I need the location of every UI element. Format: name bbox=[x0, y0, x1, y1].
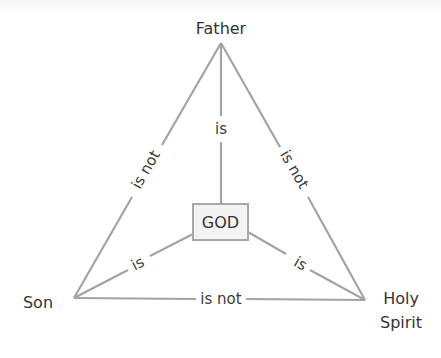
trinity-diagram: GOD Father Son Holy Spirit is not is not… bbox=[0, 0, 441, 358]
edge-label-son-god: is bbox=[128, 253, 147, 275]
edge-father-son-upper bbox=[162, 43, 221, 145]
edge-spirit-god-left bbox=[248, 232, 286, 254]
edge-label-son-spirit: is not bbox=[200, 290, 241, 308]
god-label: GOD bbox=[202, 213, 239, 232]
edge-label-father-god: is bbox=[215, 120, 227, 138]
father-label: Father bbox=[196, 19, 247, 38]
spirit-label: Spirit bbox=[380, 313, 422, 332]
edge-father-spirit-upper bbox=[221, 43, 280, 147]
edge-label-father-son: is not bbox=[128, 147, 164, 192]
edge-label-spirit-god: is bbox=[291, 253, 311, 275]
edge-label-father-spirit: is not bbox=[276, 147, 312, 192]
son-label: Son bbox=[23, 293, 53, 312]
edge-son-spirit-left bbox=[74, 298, 196, 299]
holy-label: Holy bbox=[383, 289, 419, 308]
edge-son-spirit-right bbox=[246, 299, 365, 300]
edge-son-god-right bbox=[150, 234, 193, 256]
